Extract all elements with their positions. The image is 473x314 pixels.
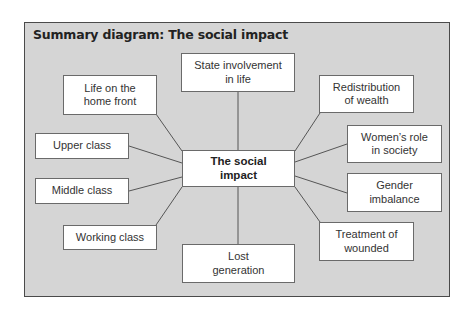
connector-working-class: [156, 187, 182, 225]
connector-gender-imbalance: [295, 176, 347, 193]
connector-life-home-front: [156, 114, 182, 151]
connector-treatment-wounded: [295, 187, 320, 222]
node-label: wounded: [336, 242, 398, 256]
connector-womens-role: [295, 144, 347, 162]
node-label: State involvement: [194, 59, 281, 73]
node-label: in life: [194, 73, 281, 87]
connector-middle-class: [129, 177, 182, 191]
node-womens-role: Women’s role in society: [347, 125, 442, 163]
node-lost-generation: Lost generation: [182, 244, 295, 283]
center-node-social-impact: The social impact: [182, 150, 295, 187]
node-treatment-wounded: Treatment of wounded: [319, 222, 414, 261]
node-label: in society: [361, 144, 428, 158]
center-node-line1: The social: [210, 155, 266, 169]
node-upper-class: Upper class: [35, 133, 129, 159]
connector-upper-class: [129, 146, 182, 163]
node-gender-imbalance: Gender imbalance: [347, 173, 442, 212]
node-label: imbalance: [369, 193, 419, 207]
node-life-home-front: Life on the home front: [63, 75, 157, 115]
node-working-class: Working class: [63, 225, 157, 250]
node-label: of wealth: [333, 94, 400, 108]
node-redistribution-wealth: Redistribution of wealth: [319, 75, 414, 113]
node-label: Redistribution: [333, 81, 400, 95]
node-state-involvement: State involvement in life: [181, 53, 295, 92]
center-node-line2: impact: [210, 169, 266, 183]
node-label: Upper class: [53, 139, 111, 153]
node-middle-class: Middle class: [35, 178, 129, 204]
node-label: Lost: [213, 250, 265, 264]
node-label: Life on the: [84, 82, 137, 96]
node-label: Treatment of: [336, 228, 398, 242]
node-label: generation: [213, 264, 265, 278]
node-label: Working class: [76, 231, 144, 245]
connector-redistribution-wealth: [295, 113, 320, 151]
node-label: Gender: [369, 179, 419, 193]
node-label: Middle class: [52, 184, 113, 198]
node-label: Women’s role: [361, 131, 428, 145]
node-label: home front: [84, 95, 137, 109]
